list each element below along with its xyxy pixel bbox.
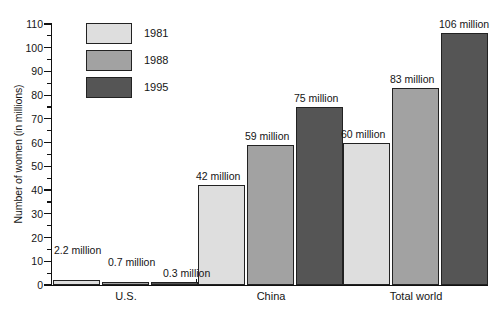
- bar-chart: Number of women (in millions) 0102030405…: [0, 0, 492, 318]
- legend-label: 1995: [144, 81, 168, 93]
- y-tick-major: [44, 118, 52, 119]
- category-label-total-world: Total world: [356, 290, 476, 302]
- y-tick-label: 60: [31, 138, 43, 149]
- y-tick-label: 90: [31, 66, 43, 77]
- legend-swatch-1995: [86, 77, 132, 98]
- bar-value-label: 0.7 million: [108, 257, 155, 268]
- y-tick-major: [44, 261, 52, 262]
- y-tick-minor: [47, 249, 52, 250]
- y-tick-major: [44, 71, 52, 72]
- bar-u-s-1995: [151, 282, 198, 285]
- y-tick-label: 70: [31, 114, 43, 125]
- bar-total-world-1988: [392, 88, 439, 285]
- category-label-china: China: [211, 290, 331, 302]
- y-tick-minor: [47, 130, 52, 131]
- bar-total-world-1981: [343, 143, 390, 285]
- y-tick-minor: [47, 35, 52, 36]
- legend-label: 1988: [144, 54, 168, 66]
- y-tick-label: 0: [37, 280, 43, 291]
- y-tick-minor: [47, 178, 52, 179]
- legend-swatch-1981: [86, 23, 132, 44]
- legend-item-1995: 1995: [86, 77, 236, 104]
- y-tick-major: [44, 142, 52, 143]
- y-tick-label: 80: [31, 90, 43, 101]
- x-axis-separator: [51, 279, 52, 286]
- y-tick-minor: [47, 273, 52, 274]
- y-tick-major: [44, 213, 52, 214]
- y-tick-minor: [47, 201, 52, 202]
- y-tick-label: 100: [25, 43, 43, 54]
- category-label-u-s: U.S.: [66, 290, 186, 302]
- legend-swatch-1988: [86, 50, 132, 71]
- y-tick-label: 110: [26, 19, 43, 30]
- legend-label: 1981: [144, 27, 168, 39]
- bar-value-label: 106 million: [439, 19, 489, 30]
- bar-value-label: 42 million: [196, 171, 240, 182]
- bar-value-label: 75 million: [294, 93, 338, 104]
- bar-china-1995: [296, 107, 343, 285]
- y-tick-label: 20: [31, 233, 43, 244]
- y-tick-major: [44, 189, 52, 190]
- y-tick-minor: [47, 59, 52, 60]
- bar-value-label: 83 million: [390, 74, 434, 85]
- bar-total-world-1995: [441, 33, 488, 285]
- bar-value-label: 60 million: [341, 129, 385, 140]
- y-axis-title: Number of women (in millions): [12, 54, 24, 254]
- y-tick-minor: [47, 154, 52, 155]
- legend: 198119881995: [86, 23, 236, 104]
- y-tick-label: 50: [31, 161, 43, 172]
- y-tick-major: [44, 166, 52, 167]
- bar-value-label: 2.2 million: [54, 245, 101, 256]
- bar-u-s-1981: [53, 280, 100, 285]
- y-tick-minor: [47, 106, 52, 107]
- y-tick-major: [44, 237, 52, 238]
- y-tick-minor: [47, 83, 52, 84]
- y-tick-label: 10: [31, 256, 43, 267]
- y-tick-minor: [47, 225, 52, 226]
- y-tick-label: 40: [31, 185, 43, 196]
- legend-item-1988: 1988: [86, 50, 236, 77]
- y-tick-major: [44, 95, 52, 96]
- bar-value-label: 59 million: [245, 131, 289, 142]
- x-axis-line: [51, 285, 488, 286]
- bar-china-1988: [247, 145, 294, 285]
- legend-item-1981: 1981: [86, 23, 236, 50]
- bar-u-s-1988: [102, 282, 149, 285]
- y-tick-major: [44, 47, 52, 48]
- y-tick-label: 30: [31, 209, 43, 220]
- y-tick-major: [44, 23, 52, 24]
- bar-value-label: 0.3 million: [163, 268, 210, 279]
